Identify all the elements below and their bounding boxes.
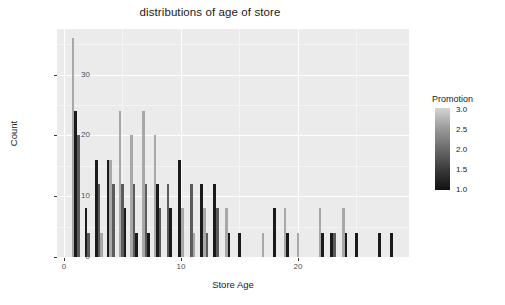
legend-body: 3.02.52.01.51.0	[432, 108, 502, 190]
legend-tick-mark	[450, 189, 453, 190]
bar	[124, 208, 127, 257]
bar	[333, 233, 336, 257]
gridline-major-vertical	[298, 29, 299, 257]
bar	[286, 233, 289, 257]
x-tick-label: 0	[52, 262, 76, 271]
bar	[390, 233, 393, 257]
y-tick-label: 10	[50, 191, 90, 200]
gridline-major-horizontal	[57, 135, 409, 136]
gridline-major-horizontal	[57, 75, 409, 76]
legend-tick-label: 2.5	[456, 125, 467, 134]
bar	[112, 184, 115, 257]
bar	[378, 233, 381, 257]
bar	[181, 208, 184, 257]
legend-tick-mark	[450, 149, 453, 150]
bar	[216, 208, 219, 257]
bar	[159, 208, 162, 257]
bar	[297, 233, 300, 257]
legend-tick-mark	[450, 109, 453, 110]
bar	[147, 233, 150, 257]
x-tick-mark	[298, 258, 299, 261]
gridline-major-vertical	[64, 29, 65, 257]
y-axis-title: Count	[8, 104, 19, 164]
legend-tick-mark	[450, 169, 453, 170]
gridline-minor-vertical	[239, 29, 240, 257]
bar	[345, 233, 348, 257]
bar	[355, 233, 358, 257]
legend-tick-mark	[450, 129, 453, 130]
bar	[100, 233, 103, 257]
legend-tick-label: 1.5	[456, 165, 467, 174]
legend-tick-label: 1.0	[456, 185, 467, 194]
bar	[228, 233, 231, 257]
chart-title: distributions of age of store	[0, 6, 420, 18]
x-tick-mark	[64, 258, 65, 261]
bar	[169, 208, 172, 257]
legend-colorbar	[435, 108, 450, 190]
y-tick-label: 20	[50, 130, 90, 139]
bar	[206, 233, 209, 257]
bar	[273, 208, 276, 257]
bar	[193, 233, 196, 257]
y-tick-label: 0	[50, 252, 90, 261]
x-tick-label: 10	[169, 262, 193, 271]
gridline-minor-horizontal	[57, 105, 409, 106]
gridline-minor-vertical	[356, 29, 357, 257]
bar	[238, 233, 241, 257]
y-tick-label: 30	[50, 70, 90, 79]
x-tick-label: 20	[286, 262, 310, 271]
legend-tick-label: 3.0	[456, 105, 467, 114]
chart-root: distributions of age of store 0102030 01…	[0, 0, 505, 305]
legend-title: Promotion	[432, 94, 502, 104]
x-tick-mark	[181, 258, 182, 261]
bar	[321, 233, 324, 257]
legend-tick-label: 2.0	[456, 145, 467, 154]
gridline-minor-horizontal	[57, 44, 409, 45]
legend: Promotion 3.02.52.01.51.0	[432, 94, 502, 190]
x-axis-title: Store Age	[57, 279, 409, 290]
plot-panel	[57, 29, 409, 257]
bar	[135, 233, 138, 257]
bar	[262, 233, 265, 257]
